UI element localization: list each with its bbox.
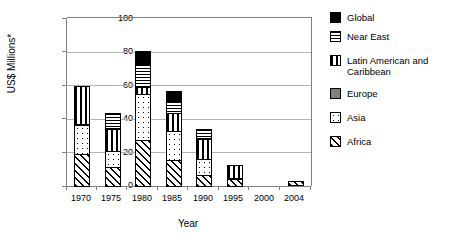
bar-segment-1995-latin-american-and-caribbean xyxy=(227,165,243,178)
gridline-20 xyxy=(67,152,311,153)
x-tick-mark-7 xyxy=(279,186,280,190)
legend-item-europe: Europe xyxy=(330,88,448,99)
x-tick-mark-3 xyxy=(157,186,158,190)
europe-swatch-icon xyxy=(330,88,341,99)
bar-segment-1990-africa xyxy=(196,175,212,187)
plot-area xyxy=(66,18,311,187)
legend-item-latin-american: Latin American and Caribbean xyxy=(330,55,448,77)
legend-label-europe: Europe xyxy=(347,88,378,99)
legend-label-global: Global xyxy=(347,12,374,23)
legend-label-asia: Asia xyxy=(347,112,365,123)
bar-segment-1970-latin-american-and-caribbean xyxy=(74,86,90,125)
bar-segment-1975-asia xyxy=(105,151,121,168)
x-tick-mark-5 xyxy=(218,186,219,190)
bar-segment-1980-africa xyxy=(135,140,151,187)
legend-item-asia: Asia xyxy=(330,112,448,123)
bar-segment-1985-global xyxy=(166,91,182,101)
africa-swatch-icon xyxy=(330,136,341,147)
bar-1990 xyxy=(196,129,212,186)
bar-1980 xyxy=(135,51,151,186)
plot-top-border xyxy=(67,17,311,18)
legend-item-africa: Africa xyxy=(330,136,448,147)
gridline-60 xyxy=(67,85,311,86)
legend-label-latin-american: Latin American and Caribbean xyxy=(347,55,448,77)
bar-segment-1990-near-east xyxy=(196,129,212,138)
x-tick-mark-6 xyxy=(248,186,249,190)
x-tick-mark-end xyxy=(310,186,311,190)
bar-segment-1970-asia xyxy=(74,125,90,155)
bar-1975 xyxy=(105,113,121,186)
legend-label-near-east: Near East xyxy=(347,31,389,42)
x-tick-mark-start xyxy=(66,186,67,190)
legend-item-near-east: Near East xyxy=(330,31,448,42)
latin-american-swatch-icon xyxy=(330,55,341,66)
bar-segment-1990-latin-american-and-caribbean xyxy=(196,139,212,161)
bar-segment-1975-near-east xyxy=(105,113,121,129)
bar-segment-1985-asia xyxy=(166,131,182,161)
gridline-40 xyxy=(67,119,311,120)
x-tick-mark-2 xyxy=(126,186,127,190)
bar-1970 xyxy=(74,86,90,186)
legend-item-global: Global xyxy=(330,12,448,23)
chart-legend: Global Near East Latin American and Cari… xyxy=(330,12,448,155)
bar-segment-1970-africa xyxy=(74,154,90,187)
gridline-80 xyxy=(67,52,311,53)
x-tick-mark-4 xyxy=(187,186,188,190)
x-tick-label-2004: 2004 xyxy=(274,193,314,203)
bar-segment-1985-latin-american-and-caribbean xyxy=(166,113,182,131)
x-axis-title: Year xyxy=(66,218,310,229)
bar-segment-1990-asia xyxy=(196,159,212,176)
plot-right-border xyxy=(311,17,312,186)
bar-2004 xyxy=(288,181,304,186)
stacked-bar-chart: US$ Millions* 100 80 60 40 20 0 1970 197… xyxy=(0,0,451,242)
bar-segment-1985-near-east xyxy=(166,101,182,114)
bar-segment-1975-africa xyxy=(105,167,121,187)
x-tick-mark-1 xyxy=(96,186,97,190)
bar-1985 xyxy=(166,91,182,186)
bar-segment-1980-global xyxy=(135,51,151,64)
bar-segment-1975-latin-american-and-caribbean xyxy=(105,129,121,153)
y-axis-title: US$ Millions* xyxy=(6,9,17,119)
bar-segment-1980-near-east xyxy=(135,64,151,88)
bar-1995 xyxy=(227,165,243,186)
legend-label-africa: Africa xyxy=(347,136,371,147)
bar-segment-1980-asia xyxy=(135,94,151,141)
bar-segment-2004-africa xyxy=(288,181,304,186)
global-swatch-icon xyxy=(330,12,341,23)
bar-segment-1985-africa xyxy=(166,160,182,187)
near-east-swatch-icon xyxy=(330,31,341,42)
asia-swatch-icon xyxy=(330,112,341,123)
bar-segment-1995-africa xyxy=(227,179,243,187)
